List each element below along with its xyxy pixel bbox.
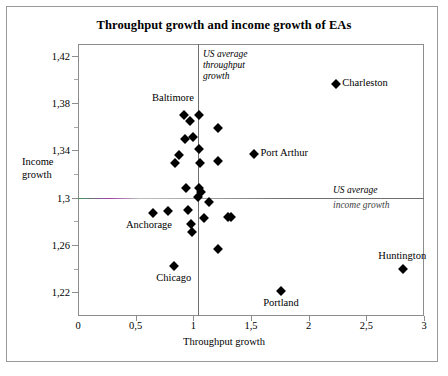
x-axis-tick-label: 0 [75,320,80,331]
x-axis-tick-mark [424,316,425,321]
x-axis-tick-mark [309,316,310,321]
data-point-label: Chicago [156,272,191,283]
baltimore-callout-label: Baltimore [152,92,194,103]
vertical-reference-line-label: US averagethroughputgrowth [203,49,248,82]
y-axis-minor-tick [74,269,78,270]
x-axis-tick-mark [193,316,194,321]
y-axis-tick-label: 1,34 [2,145,70,156]
reference-label-line: US average [333,185,378,195]
chart-title: Throughput growth and income growth of E… [0,18,448,33]
y-axis-tick-mark [72,56,78,57]
data-point-label: Portland [263,297,299,308]
x-axis-label: Throughput growth [0,336,448,347]
data-point-label: Huntington [378,250,426,261]
horizontal-reference-line [78,198,424,199]
reference-label-line: US average [203,49,248,59]
y-axis-tick-mark [72,292,78,293]
y-axis-tick-mark [72,150,78,151]
vertical-reference-line [198,44,199,316]
y-axis-label-line2: growth [22,169,52,180]
y-axis-tick-label: 1,3 [2,192,70,203]
y-axis-tick-label: 1,42 [2,50,70,61]
y-axis-tick-label: 1,26 [2,240,70,251]
y-axis-tick-mark [72,103,78,104]
y-axis-minor-tick [74,174,78,175]
reference-label-line: growth [203,71,230,81]
x-axis-tick-mark [136,316,137,321]
x-axis-tick-label: 0,5 [129,320,142,331]
horizontal-reference-line-sublabel: income growth [333,200,389,211]
x-axis-tick-label: 3 [421,320,426,331]
data-point-label: Charleston [342,77,388,88]
x-axis-tick-label: 1,5 [244,320,257,331]
data-point-label: Port Arthur [260,147,308,158]
scatter-chart: Throughput growth and income growth of E… [0,0,448,376]
x-axis-tick-label: 2 [306,320,311,331]
x-axis-tick-mark [251,316,252,321]
x-axis-tick-label: 2,5 [360,320,373,331]
data-point-label: Anchorage [126,219,172,230]
y-axis-tick-label: 1,22 [2,287,70,298]
reference-label-line: income growth [333,200,389,210]
reference-label-line: throughput [203,60,245,70]
x-axis-tick-mark [366,316,367,321]
x-axis-tick-label: 1 [191,320,196,331]
y-axis-label-line1: Income [22,156,54,167]
y-axis-tick-label: 1,38 [2,98,70,109]
horizontal-reference-line-label: US average [333,185,378,196]
y-axis-minor-tick [74,127,78,128]
y-axis-minor-tick [74,221,78,222]
y-axis-label: Income growth [22,156,78,181]
y-axis-minor-tick [74,79,78,80]
y-axis-tick-mark [72,245,78,246]
